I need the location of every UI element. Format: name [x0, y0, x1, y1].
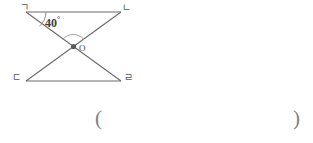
angle-measure-label: 40°	[45, 14, 60, 29]
vertex-label-top-right: ㄴ	[122, 3, 131, 13]
degree-symbol: °	[57, 15, 60, 24]
vertex-label-bottom-right: ㄹ	[124, 73, 133, 83]
vertex-label-top-left: ㄱ	[20, 3, 29, 13]
intersection-point-dot	[71, 44, 76, 49]
angle-arc-center	[63, 34, 85, 39]
answer-input-space[interactable]	[102, 118, 293, 119]
close-paren: )	[293, 108, 300, 129]
angle-value: 40	[45, 16, 57, 30]
intersection-point-label: O	[79, 44, 86, 53]
open-paren: (	[95, 108, 102, 129]
vertex-label-bottom-left: ㄷ	[12, 73, 21, 83]
answer-blank[interactable]: ( )	[95, 103, 300, 133]
geometry-problem-page: ㄱ ㄴ ㄷ ㄹ 40° O ( )	[0, 0, 313, 143]
geometry-figure: ㄱ ㄴ ㄷ ㄹ 40° O	[0, 0, 160, 96]
